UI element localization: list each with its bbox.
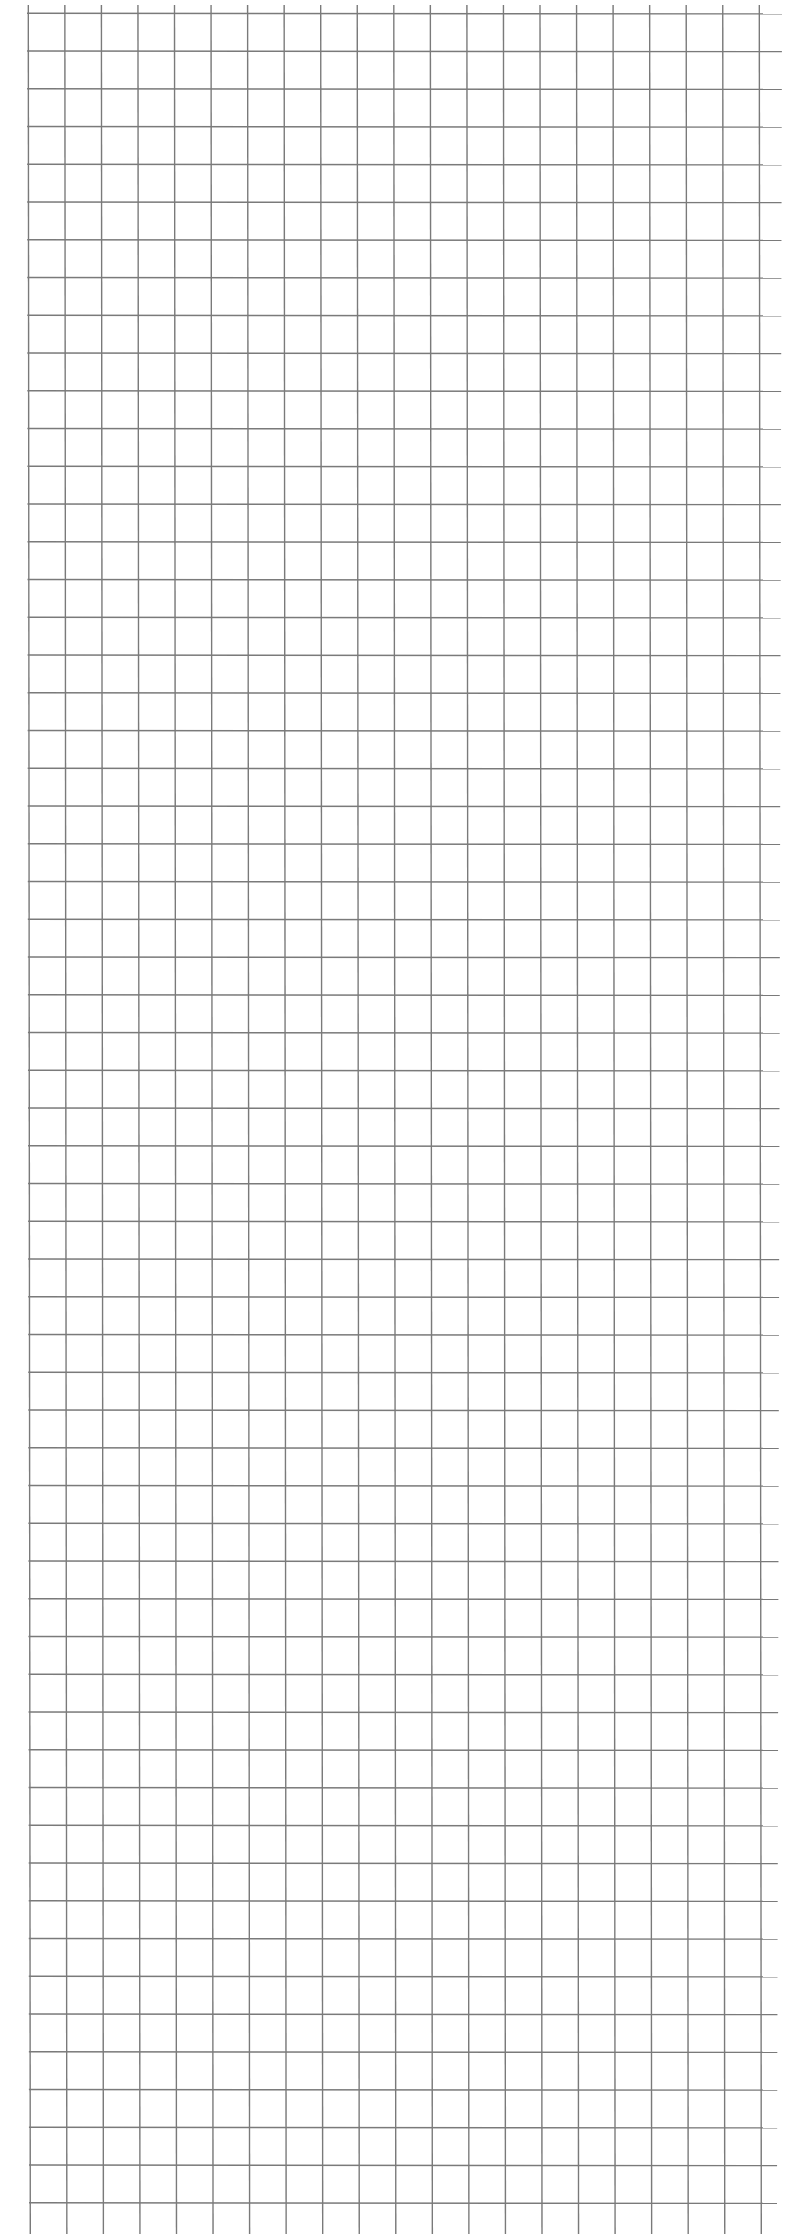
horizontal-grid-line xyxy=(28,580,781,581)
vertical-grid-line xyxy=(430,5,432,2234)
grid-lines xyxy=(0,0,789,2240)
horizontal-grid-line xyxy=(27,240,781,241)
vertical-grid-line xyxy=(211,5,213,2234)
horizontal-grid-line xyxy=(28,1372,779,1373)
horizontal-grid-line xyxy=(27,89,782,90)
horizontal-grid-line xyxy=(27,315,781,316)
horizontal-grid-line xyxy=(28,1297,779,1298)
vertical-grid-line xyxy=(65,5,67,2234)
horizontal-grid-line xyxy=(29,2203,777,2204)
horizontal-grid-line xyxy=(28,731,781,732)
horizontal-grid-line xyxy=(29,1674,779,1675)
vertical-grid-line xyxy=(284,5,286,2234)
horizontal-grid-line xyxy=(28,1523,778,1524)
horizontal-grid-line xyxy=(28,1448,778,1449)
horizontal-grid-line xyxy=(27,466,781,467)
horizontal-grid-line xyxy=(28,693,781,694)
horizontal-grid-line xyxy=(28,1259,779,1260)
graph-paper-sheet xyxy=(0,0,789,2240)
horizontal-grid-line xyxy=(27,429,781,430)
horizontal-grid-line xyxy=(29,1901,778,1902)
horizontal-grid-line xyxy=(28,1486,778,1487)
horizontal-grid-line xyxy=(28,995,780,996)
horizontal-grid-line xyxy=(28,957,780,958)
horizontal-grid-line xyxy=(29,2052,777,2053)
vertical-grid-line xyxy=(357,5,359,2234)
horizontal-grid-line xyxy=(28,844,780,845)
horizontal-grid-line xyxy=(28,768,781,769)
horizontal-grid-line xyxy=(27,127,782,128)
vertical-grid-line xyxy=(101,5,103,2234)
horizontal-grid-line xyxy=(28,1184,779,1185)
horizontal-grid-line xyxy=(28,1146,779,1147)
vertical-grid-line xyxy=(577,5,579,2234)
vertical-grid-line xyxy=(686,5,688,2234)
horizontal-grid-line xyxy=(29,1712,779,1713)
horizontal-grid-line xyxy=(28,806,780,807)
horizontal-grid-line xyxy=(28,1070,780,1071)
vertical-grid-line xyxy=(540,5,542,2234)
horizontal-grid-line xyxy=(29,1750,778,1751)
horizontal-grid-line xyxy=(28,1108,780,1109)
horizontal-grid-line xyxy=(29,1788,778,1789)
horizontal-grid-line xyxy=(28,919,780,920)
horizontal-grid-line xyxy=(29,2090,777,2091)
horizontal-grid-line xyxy=(28,1033,780,1034)
horizontal-grid-line xyxy=(27,353,781,354)
horizontal-grid-line xyxy=(27,164,782,165)
vertical-grid-line xyxy=(613,5,615,2234)
horizontal-grid-line xyxy=(27,542,780,543)
horizontal-grid-line xyxy=(28,882,780,883)
horizontal-grid-line xyxy=(27,504,780,505)
horizontal-grid-line xyxy=(28,1410,779,1411)
horizontal-grid-line xyxy=(27,391,781,392)
vertical-grid-line xyxy=(248,5,250,2234)
horizontal-grid-line xyxy=(27,13,782,14)
horizontal-grid-line xyxy=(28,1637,778,1638)
horizontal-grid-line xyxy=(28,1335,779,1336)
vertical-grid-line xyxy=(759,5,761,2234)
horizontal-grid-line xyxy=(28,1561,778,1562)
horizontal-grid-line xyxy=(29,1976,778,1977)
vertical-grid-line xyxy=(321,5,323,2234)
horizontal-grid-line xyxy=(28,617,781,618)
vertical-grid-line xyxy=(394,5,396,2234)
horizontal-grid-line xyxy=(29,2014,778,2015)
horizontal-grid-line xyxy=(29,1825,778,1826)
horizontal-grid-line xyxy=(27,51,782,52)
vertical-grid-line xyxy=(175,5,177,2234)
vertical-grid-line xyxy=(467,5,469,2234)
horizontal-grid-line xyxy=(29,2127,777,2128)
vertical-grid-line xyxy=(138,5,140,2234)
vertical-grid-line xyxy=(650,5,652,2234)
vertical-grid-line xyxy=(503,5,505,2234)
horizontal-grid-line xyxy=(27,202,781,203)
horizontal-grid-line xyxy=(28,655,781,656)
horizontal-grid-line xyxy=(28,1221,779,1222)
horizontal-grid-line xyxy=(29,1939,778,1940)
vertical-grid-lines xyxy=(28,5,761,2234)
horizontal-grid-line xyxy=(29,1863,778,1864)
vertical-grid-line xyxy=(723,5,725,2234)
horizontal-grid-line xyxy=(29,2165,777,2166)
vertical-grid-line xyxy=(28,5,30,2234)
horizontal-grid-line xyxy=(27,278,781,279)
horizontal-grid-line xyxy=(28,1599,778,1600)
